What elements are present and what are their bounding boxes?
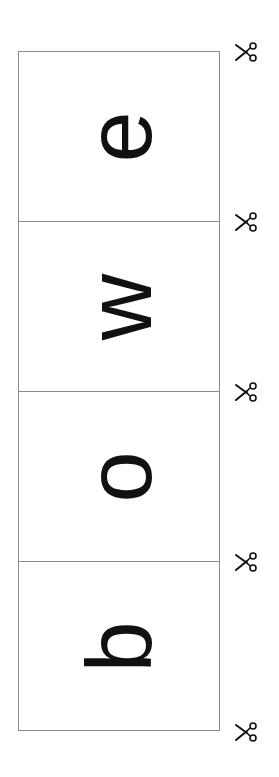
letter-o: o [73,451,165,502]
letter-e: e [73,111,165,162]
letter-cell-2: w [19,222,219,392]
letter-w: w [73,274,165,340]
scissors-icon [234,722,260,742]
scissors-icon [234,42,260,62]
scissors-icon [234,382,260,402]
letter-cell-3: o [19,392,219,562]
letter-cell-1: e [19,52,219,222]
scissors-icon [234,552,260,572]
letter-cell-4: b [19,562,219,732]
letter-b: b [73,621,165,672]
scissors-icon [234,212,260,232]
letter-strip: e w o b [18,51,220,731]
